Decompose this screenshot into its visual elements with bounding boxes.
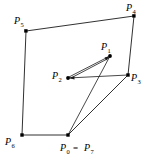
label-p4-subscript: 4 <box>133 8 137 15</box>
label-p6-subscript: 6 <box>12 142 16 149</box>
label-p4-letter: P <box>125 2 132 13</box>
label-p1-letter: P <box>100 41 107 52</box>
label-p5-letter: P <box>13 15 20 26</box>
label-p3: P 3 <box>130 72 141 85</box>
label-p7-subscript: 7 <box>91 148 95 155</box>
label-p3-letter: P <box>130 72 137 83</box>
vertex-dot-p3 <box>126 73 129 76</box>
label-p4: P 4 <box>125 2 137 15</box>
label-p6-letter: P <box>4 136 11 147</box>
label-p1-subscript: 1 <box>108 47 111 54</box>
label-p0-letter: P <box>59 142 66 153</box>
inner-edge-p0-p1 <box>68 56 110 135</box>
vertex-dot-p5 <box>24 29 27 32</box>
label-p2: P 2 <box>51 70 62 83</box>
edge-p3-p0 <box>68 75 128 135</box>
polygon-diagram-svg: P 5 P 4 P 1 P 2 P 3 <box>0 0 152 155</box>
label-p6: P 6 <box>4 136 16 149</box>
vertex-dot-p6 <box>20 133 23 136</box>
label-p0-eq-p7: P 0 = P 7 <box>59 142 95 155</box>
inner-path-edges <box>68 56 128 135</box>
label-p1: P 1 <box>100 41 111 54</box>
vertex-dot-p0-p7 <box>66 133 69 136</box>
label-p2-subscript: 2 <box>59 76 62 83</box>
label-p3-subscript: 3 <box>138 78 141 85</box>
edge-p6-p5 <box>22 31 26 135</box>
edge-p4-p3 <box>128 16 134 75</box>
diagram-canvas: P 5 P 4 P 1 P 2 P 3 <box>0 0 152 155</box>
label-p2-letter: P <box>51 70 58 81</box>
vertex-dot-p1 <box>108 54 112 58</box>
label-p7-letter: P <box>83 142 90 153</box>
inner-edge-p2-p1 <box>69 57 108 77</box>
label-equals-sign: = <box>73 143 78 153</box>
label-p0-subscript: 0 <box>67 148 70 155</box>
inner-edge-p2-p3 <box>68 75 128 78</box>
label-p5-subscript: 5 <box>21 21 24 28</box>
vertex-dot-p2 <box>66 76 70 80</box>
edge-p5-p4 <box>26 16 134 31</box>
label-p5: P 5 <box>13 15 24 28</box>
